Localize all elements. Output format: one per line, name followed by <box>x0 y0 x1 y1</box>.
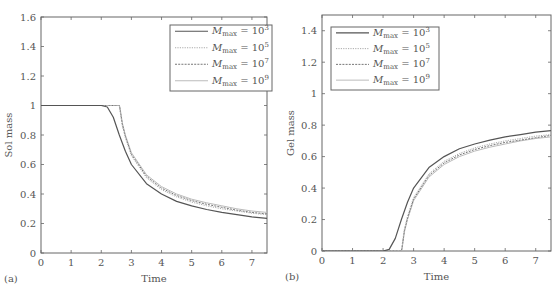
x-axis-label: Time <box>424 271 449 282</box>
x-tick-label: 2 <box>380 255 386 266</box>
series-line <box>322 137 551 251</box>
x-axis-label: Time <box>141 273 166 284</box>
legend-entry-label: Mmax = 107 <box>211 57 269 71</box>
x-tick-label: 7 <box>533 255 539 266</box>
y-tick-label: 0 <box>311 246 317 257</box>
x-tick-label: 0 <box>38 257 44 268</box>
y-tick-label: 0.6 <box>301 151 317 162</box>
legend-entry-label: Mmax = 103 <box>211 24 269 38</box>
y-tick-label: 0.4 <box>301 183 317 194</box>
x-tick-label: 6 <box>219 257 225 268</box>
y-tick-label: 1.4 <box>20 41 36 52</box>
panel-b-gel-mass-plot: 0123456700.20.40.60.811.21.4TimeGel mass… <box>285 15 551 282</box>
legend-entry-label: Mmax = 109 <box>211 74 269 88</box>
legend-entry-label: Mmax = 105 <box>372 42 430 56</box>
x-tick-label: 3 <box>128 257 134 268</box>
y-tick-label: 0.2 <box>20 218 36 229</box>
series-line <box>41 106 267 219</box>
x-tick-label: 4 <box>441 255 447 266</box>
legend-entry-label: Mmax = 103 <box>372 26 430 40</box>
legend-entry-label: Mmax = 105 <box>211 41 269 55</box>
y-tick-label: 1 <box>311 88 317 99</box>
x-tick-label: 0 <box>319 255 325 266</box>
x-tick-label: 3 <box>410 255 416 266</box>
y-tick-label: 1.6 <box>20 12 36 23</box>
series-line <box>322 135 551 251</box>
series-line <box>41 106 267 214</box>
x-tick-label: 1 <box>349 255 355 266</box>
panel-a-sol-mass-plot: 0123456700.20.40.60.811.21.41.6TimeSol m… <box>3 12 272 285</box>
panel-label: (a) <box>4 273 18 284</box>
y-tick-label: 1.2 <box>301 57 317 68</box>
y-tick-label: 0.8 <box>20 130 36 141</box>
y-axis-label: Gel mass <box>285 110 296 156</box>
y-tick-label: 0.4 <box>20 189 36 200</box>
y-axis-label: Sol mass <box>3 113 14 158</box>
legend-entry-label: Mmax = 107 <box>372 57 430 71</box>
panel-label: (b) <box>285 271 299 282</box>
x-tick-label: 5 <box>471 255 477 266</box>
series-line <box>322 131 551 251</box>
figure: 0123456700.20.40.60.811.21.41.6TimeSol m… <box>0 0 560 293</box>
x-tick-label: 6 <box>502 255 508 266</box>
series-line <box>41 106 267 213</box>
x-tick-label: 1 <box>68 257 74 268</box>
y-tick-label: 1.4 <box>301 25 317 36</box>
x-tick-label: 2 <box>98 257 104 268</box>
y-tick-label: 1 <box>30 100 36 111</box>
legend: Mmax = 103Mmax = 105Mmax = 107Mmax = 109 <box>170 24 272 91</box>
y-tick-label: 0.8 <box>301 120 317 131</box>
x-tick-label: 5 <box>188 257 194 268</box>
series-line <box>322 135 551 251</box>
y-tick-label: 0.2 <box>301 214 317 225</box>
y-tick-label: 0.6 <box>20 159 36 170</box>
y-tick-label: 1.2 <box>20 71 36 82</box>
legend: Mmax = 103Mmax = 105Mmax = 107Mmax = 109 <box>331 26 439 90</box>
legend-entry-label: Mmax = 109 <box>372 73 430 87</box>
y-tick-label: 0 <box>30 248 36 259</box>
x-tick-label: 4 <box>158 257 164 268</box>
x-tick-label: 7 <box>249 257 255 268</box>
series-line <box>41 106 267 215</box>
